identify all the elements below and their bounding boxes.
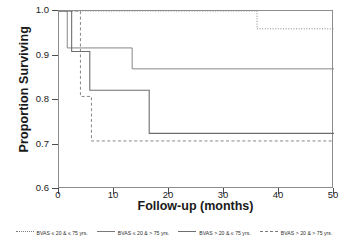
x-axis-tick-label: 50 xyxy=(318,190,348,200)
legend-line-swatch xyxy=(178,231,196,237)
x-axis-tick-label: 20 xyxy=(153,190,183,200)
legend-item: BVAS ≤ 20 & ≤ 75 yrs. xyxy=(16,231,88,237)
legend-line-swatch xyxy=(16,231,34,237)
x-axis-title: Follow-up (months) xyxy=(58,200,333,213)
survival-curve xyxy=(59,11,334,29)
chart-legend: BVAS ≤ 20 & ≤ 75 yrs.BVAS ≤ 20 & > 75 yr… xyxy=(0,227,348,241)
y-axis-tick-label: 0.9 xyxy=(9,50,49,60)
legend-item-label: BVAS ≤ 20 & > 75 yrs. xyxy=(118,231,169,236)
legend-item-label: BVAS > 20 & ≤ 75 yrs. xyxy=(199,231,250,236)
x-axis-tick-label: 10 xyxy=(98,190,128,200)
legend-item-label: BVAS ≤ 20 & ≤ 75 yrs. xyxy=(37,231,88,236)
legend-line-swatch xyxy=(260,231,278,237)
legend-item: BVAS > 20 & > 75 yrs. xyxy=(260,231,333,237)
y-axis-tick xyxy=(52,55,58,56)
y-axis-tick-label: 0.8 xyxy=(9,94,49,104)
y-axis-tick-label: 1.0 xyxy=(9,5,49,15)
survival-curve xyxy=(59,11,334,141)
survival-curve xyxy=(59,11,334,69)
legend-line-swatch xyxy=(97,231,115,237)
x-axis-tick-label: 30 xyxy=(208,190,238,200)
y-axis-tick-label: 0.7 xyxy=(9,139,49,149)
y-axis-title: Proportion Surviving xyxy=(18,4,31,174)
x-axis-tick-label: 40 xyxy=(263,190,293,200)
survival-chart-figure: Proportion Surviving Follow-up (months) … xyxy=(0,0,348,246)
y-axis-tick xyxy=(52,144,58,145)
y-axis-tick xyxy=(52,99,58,100)
legend-item: BVAS > 20 & ≤ 75 yrs. xyxy=(178,231,250,237)
legend-item-label: BVAS > 20 & > 75 yrs. xyxy=(281,231,333,236)
x-axis-tick-label: 0 xyxy=(43,190,73,200)
survival-curve xyxy=(59,11,334,133)
y-axis-tick xyxy=(52,10,58,11)
plot-area xyxy=(58,10,333,188)
legend-item: BVAS ≤ 20 & > 75 yrs. xyxy=(97,231,169,237)
curves-layer xyxy=(59,11,334,189)
